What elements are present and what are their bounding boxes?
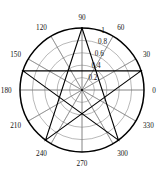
theta-tick-label-0: 0	[152, 87, 156, 95]
theta-tick-label-120: 120	[36, 24, 47, 32]
series-vertex-4	[140, 70, 142, 72]
r-tick-label-0.4: 0.4	[92, 62, 101, 70]
series-vertex-2	[45, 139, 47, 141]
series-vertex-0	[81, 27, 83, 29]
r-tick-label-0.6: 0.6	[95, 50, 104, 58]
polar-plot-figure: 0306090120150180210240270300330 0.20.40.…	[0, 0, 166, 175]
theta-tick-label-270: 270	[77, 160, 88, 168]
theta-tick-label-30: 30	[143, 51, 151, 59]
figure-background	[0, 0, 166, 175]
theta-tick-label-90: 90	[78, 14, 86, 22]
polar-plot-canvas: 0306090120150180210240270300330 0.20.40.…	[0, 0, 166, 175]
series-vertex-1	[22, 70, 24, 72]
polar-origin-marker	[81, 89, 83, 91]
r-tick-label-1: 1	[101, 27, 105, 35]
theta-tick-label-60: 60	[117, 24, 125, 32]
theta-tick-label-150: 150	[10, 51, 21, 59]
theta-tick-label-180: 180	[1, 87, 12, 95]
theta-tick-label-210: 210	[10, 122, 21, 130]
series-vertex-3	[118, 139, 120, 141]
theta-tick-label-330: 330	[143, 122, 154, 130]
r-tick-label-0.2: 0.2	[88, 74, 97, 82]
theta-tick-label-300: 300	[117, 150, 128, 158]
r-tick-label-0.8: 0.8	[98, 38, 107, 46]
theta-tick-label-240: 240	[36, 150, 47, 158]
